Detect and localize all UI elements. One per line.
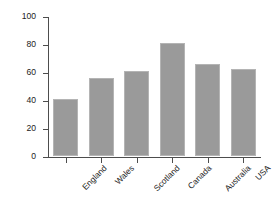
y-tick: 20 <box>43 129 48 130</box>
y-tick: 40 <box>43 101 48 102</box>
y-tick: 100 <box>43 17 48 18</box>
y-tick-label: 60 <box>26 67 36 77</box>
x-tick-label: Wales <box>113 163 136 186</box>
bar <box>53 99 78 156</box>
y-axis-line <box>48 17 49 158</box>
bar-chart-figure: Children >2 h/day screen time(%) 0204060… <box>0 0 277 212</box>
y-tick-label: 100 <box>22 11 36 21</box>
bar <box>89 78 114 156</box>
plot-area: 020406080100 <box>48 17 261 157</box>
bar <box>124 71 149 156</box>
x-tick-label: Australia <box>222 163 252 193</box>
x-tick-label: Canada <box>186 163 214 191</box>
x-tick <box>208 158 209 163</box>
bar <box>231 69 256 156</box>
x-tick-label: USA <box>253 163 272 182</box>
y-tick-label: 0 <box>31 151 36 161</box>
x-tick <box>172 158 173 163</box>
y-tick-label: 20 <box>26 123 36 133</box>
y-tick: 60 <box>43 73 48 74</box>
bar <box>160 43 185 156</box>
x-tick-label: England <box>80 163 109 192</box>
bar <box>195 64 220 156</box>
x-tick-label: Scotland <box>151 163 181 193</box>
x-tick <box>137 158 138 163</box>
y-tick: 80 <box>43 45 48 46</box>
x-tick <box>243 158 244 163</box>
y-tick: 0 <box>43 157 48 158</box>
x-axis-line <box>48 157 261 158</box>
y-tick-label: 80 <box>26 39 36 49</box>
x-tick <box>66 158 67 163</box>
y-tick-label: 40 <box>26 95 36 105</box>
